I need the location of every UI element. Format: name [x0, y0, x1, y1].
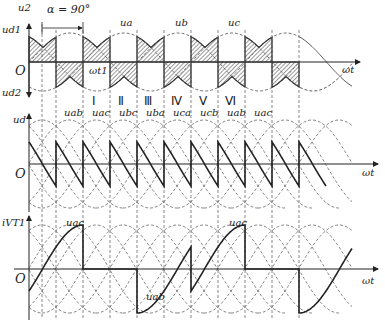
origin-label-middle: O	[15, 167, 26, 180]
waveform-canvas	[0, 0, 385, 331]
uac-curve-label-1: uac	[66, 218, 84, 228]
uab-curve-label: uab	[146, 292, 165, 302]
interval-3: Ⅲ	[144, 95, 152, 107]
interval-4: Ⅳ	[171, 95, 182, 107]
ua-label: ua	[120, 18, 132, 28]
uac-label-2: uac	[254, 108, 272, 118]
rectifier-waveform-diagram: u2 ud1 ud2 O ωt ωt1 α = 90° ua ub uc Ⅰ Ⅱ…	[0, 0, 385, 331]
origin-label-top: O	[15, 64, 26, 77]
uba-label: uba	[146, 108, 165, 118]
origin-label-bottom: O	[15, 272, 26, 285]
wt-axis-label-bottom: ωt	[362, 276, 374, 286]
wt-axis-label-top: ωt	[342, 65, 354, 75]
uac-label-1: uac	[92, 108, 110, 118]
ud2-label: ud2	[2, 88, 21, 98]
ud1-label: ud1	[2, 25, 21, 35]
uca-label: uca	[173, 108, 191, 118]
ub-label: ub	[175, 18, 188, 28]
interval-1: Ⅰ	[92, 95, 96, 107]
ivt1-axis-label: iVT1	[2, 218, 25, 228]
alpha-label: α = 90°	[47, 4, 90, 15]
wt-axis-label-middle: ωt	[362, 168, 374, 178]
ud-axis-label: ud	[13, 115, 26, 125]
uab-label-1: uab	[64, 108, 83, 118]
uac-curve-label-2: uac	[229, 218, 247, 228]
interval-2: Ⅱ	[118, 95, 124, 107]
uab-label-2: uab	[227, 108, 246, 118]
u2-axis-label: u2	[18, 3, 31, 13]
ubc-label: ubc	[119, 108, 137, 118]
uc-label: uc	[228, 18, 240, 28]
interval-5: Ⅴ	[199, 95, 207, 107]
interval-6: Ⅵ	[225, 95, 236, 107]
ucb-label: ucb	[200, 108, 218, 118]
wt1-label: ωt1	[89, 66, 108, 76]
